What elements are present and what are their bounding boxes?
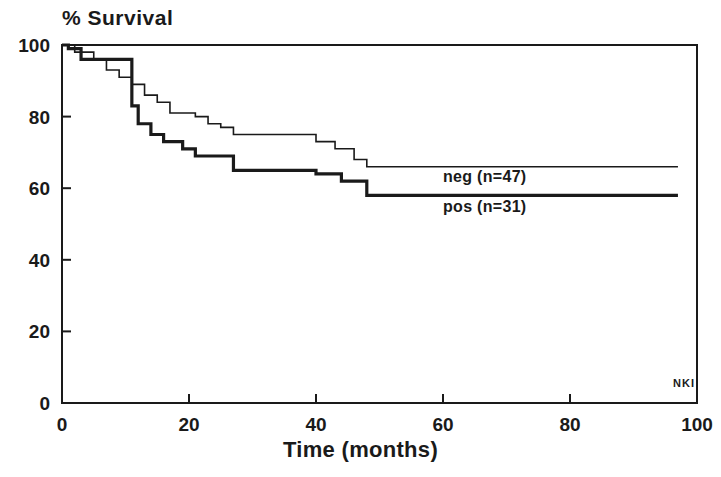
series-line-neg	[62, 45, 678, 167]
x-axis-tick-label: 0	[57, 414, 68, 435]
x-axis-tick-label: 80	[559, 414, 580, 435]
x-axis-tick-label: 40	[305, 414, 326, 435]
y-axis-tick-label: 20	[29, 321, 50, 342]
x-axis-tick-label: 100	[681, 414, 713, 435]
series-line-pos	[62, 45, 678, 195]
y-axis-tick-label: 40	[29, 250, 50, 271]
y-axis-tick-label: 80	[29, 107, 50, 128]
chart-canvas: 020406080100020406080100	[0, 0, 721, 477]
x-axis-tick-label: 60	[432, 414, 453, 435]
y-axis-tick-label: 60	[29, 178, 50, 199]
x-axis-tick-label: 20	[178, 414, 199, 435]
series-label-pos: pos (n=31)	[443, 198, 526, 216]
x-axis-title: Time (months)	[0, 437, 721, 463]
nki-watermark: NKI	[673, 377, 695, 389]
series-label-neg: neg (n=47)	[443, 168, 526, 186]
y-axis-tick-label: 100	[18, 35, 50, 56]
survival-chart-figure: % Survival 020406080100020406080100 neg …	[0, 0, 721, 477]
y-axis-tick-label: 0	[39, 393, 50, 414]
